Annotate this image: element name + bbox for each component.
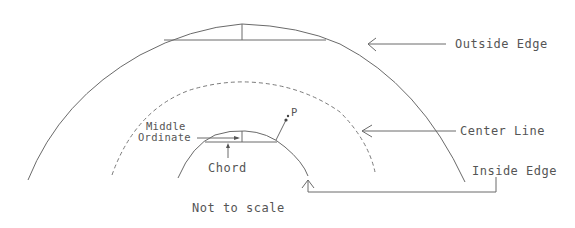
chord-label: Chord: [208, 161, 247, 175]
inside-edge-label: Inside Edge: [472, 164, 557, 178]
outside-edge-arc: [28, 24, 465, 182]
point-p-label: P: [291, 106, 298, 118]
middle-ordinate-arrowhead-icon: [234, 136, 240, 140]
scale-note: Not to scale: [192, 201, 285, 215]
center-line-label: Center Line: [460, 124, 545, 138]
curve-diagram: Outside Edge Center Line Inside Edge Mid…: [0, 0, 575, 228]
chord-arrowhead-icon: [226, 143, 230, 148]
middle-ordinate-label-line2: Ordinate: [138, 131, 191, 143]
point-p-leader: [276, 120, 286, 140]
inside-edge-leader: [308, 177, 496, 192]
point-p-marker: [284, 118, 287, 121]
outside-edge-label: Outside Edge: [455, 37, 548, 51]
